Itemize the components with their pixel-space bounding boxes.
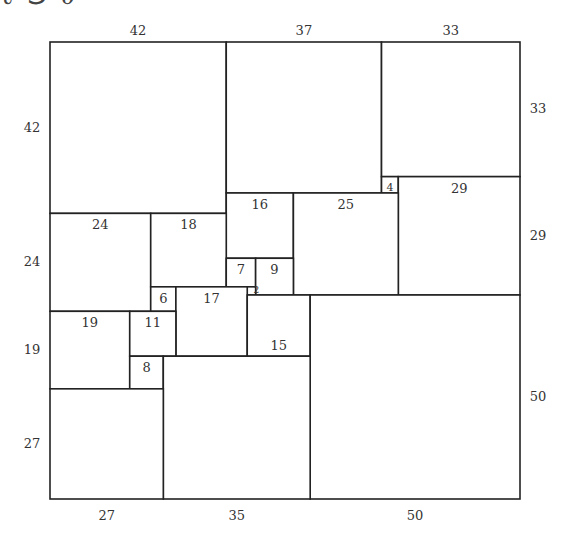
- square-label: 16: [252, 197, 269, 212]
- top-edge-label: 33: [442, 23, 459, 38]
- left-edge-label: 27: [24, 436, 41, 451]
- square-label: 17: [203, 291, 220, 306]
- square-33: [382, 42, 520, 177]
- square-27: [50, 389, 163, 499]
- right-edge-label: 50: [530, 389, 547, 404]
- left-edge-label: 24: [24, 254, 41, 269]
- square-16: 16: [226, 193, 293, 258]
- left-edge-label: 42: [24, 120, 41, 135]
- square-label: 19: [82, 315, 99, 330]
- square-24: 24: [50, 213, 151, 311]
- bottom-edge-label: 27: [98, 508, 115, 523]
- square-17: 17: [176, 287, 247, 356]
- square-42: [50, 42, 226, 213]
- square-50: [310, 295, 520, 499]
- square-label: 15: [270, 338, 287, 353]
- square-label: 29: [451, 181, 468, 196]
- square-label: 24: [92, 217, 109, 232]
- square-label: 18: [180, 217, 197, 232]
- square-25: 25: [293, 193, 398, 295]
- square-8: 8: [130, 356, 164, 389]
- square-18: 18: [151, 213, 227, 286]
- right-edge-label: 29: [530, 228, 547, 243]
- bottom-edge-label: 35: [228, 508, 245, 523]
- left-edge-label: 19: [24, 342, 41, 357]
- square-label: 8: [142, 360, 150, 375]
- bottom-edge-label: 50: [407, 508, 424, 523]
- top-edge-label: 37: [296, 23, 313, 38]
- square-15: 15: [247, 295, 310, 356]
- squared-square-diagram: 4291625241879261715191184237332735504224…: [0, 0, 566, 542]
- top-edge-label: 42: [130, 23, 147, 38]
- square-11: 11: [130, 311, 176, 356]
- square-label: 6: [159, 291, 167, 306]
- square-4: 4: [382, 177, 399, 194]
- square-label: 4: [386, 181, 393, 194]
- right-edge-label: 33: [530, 101, 547, 116]
- square-19: 19: [50, 311, 130, 389]
- square-label: 9: [270, 262, 278, 277]
- square-label: 7: [237, 262, 245, 277]
- square-35: [163, 356, 310, 499]
- square-7: 7: [226, 258, 255, 287]
- square-9: 9: [256, 258, 294, 295]
- square-label: 11: [145, 315, 162, 330]
- square-2: 2: [247, 285, 259, 295]
- square-29: 29: [398, 177, 520, 295]
- square-label: 25: [338, 197, 355, 212]
- square-label: 2: [254, 285, 260, 295]
- square-37: [226, 42, 381, 193]
- square-6: 6: [151, 287, 176, 311]
